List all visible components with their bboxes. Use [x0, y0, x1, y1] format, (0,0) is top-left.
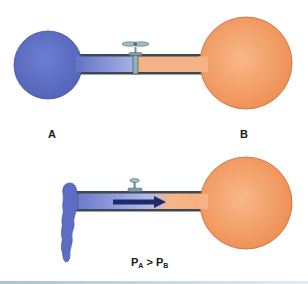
greater-than-operator: > — [143, 256, 156, 268]
container-a-label: A — [48, 128, 56, 140]
pressure-equation: PA > PB — [131, 256, 168, 269]
bottom-panel — [61, 157, 292, 262]
valve-handle-icon — [128, 179, 142, 192]
top-panel — [14, 17, 292, 109]
tube-wall-bottom — [76, 209, 204, 212]
container-b — [200, 157, 292, 249]
container-b-neck — [198, 194, 208, 209]
container-a-neck — [76, 57, 82, 73]
container-b — [200, 17, 292, 109]
tube-segment-b — [138, 56, 208, 73]
container-b-label: B — [240, 128, 248, 140]
tube-segment-a — [78, 56, 136, 73]
diagram-canvas: A B PA > PB — [0, 0, 308, 284]
tube-wall-bottom — [78, 72, 204, 75]
container-b-neck — [198, 57, 208, 73]
collapsed-container-a — [61, 183, 78, 262]
subscript-b: B — [163, 262, 168, 269]
container-a — [14, 31, 82, 99]
gas-diffusion-diagram — [0, 0, 308, 284]
